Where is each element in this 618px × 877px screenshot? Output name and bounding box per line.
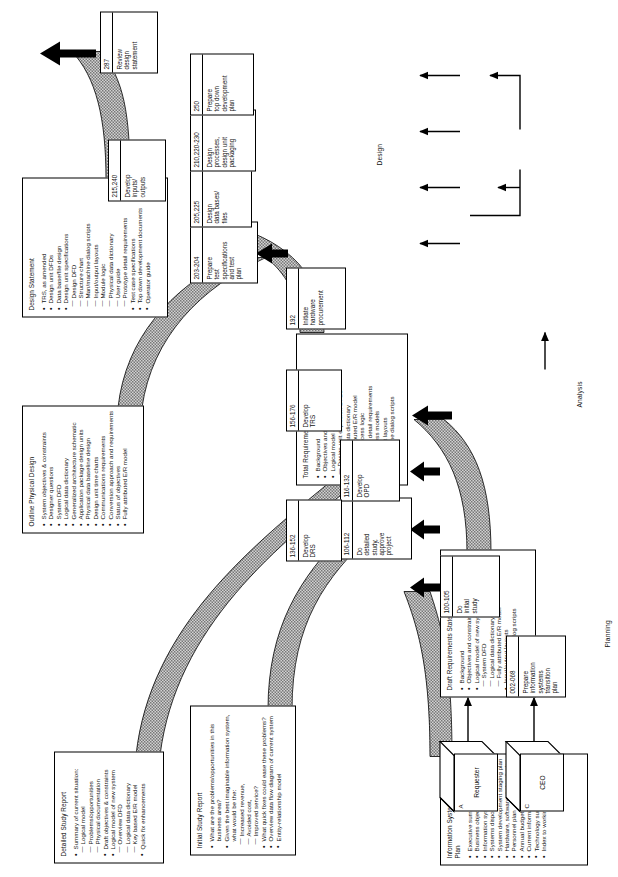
process-label: Develop TRS [299,370,341,430]
external-entity-requester: Requester A [440,739,500,811]
bold-arrow-into-100-105 [410,577,440,597]
process-label: Prepare top down development plan [203,54,253,114]
process-id: 156-176 [287,370,299,430]
process-id: 116-132 [341,440,353,500]
process-203-204: 203-204 Prepare test specifications and … [190,221,258,283]
document-list-item: Draft objectives & constraints [102,758,109,856]
document-list-item: Entity-relationship model [275,712,282,848]
process-label: Develop DRS [299,500,341,560]
document-list-item: Status of objectives [114,412,121,526]
process-id: 192 [287,268,299,328]
process-156-176: 156-176 Develop TRS [286,369,342,431]
document-list-item: User guide [114,184,121,310]
document-list-item: Module logic [99,184,106,310]
process-label: Review design statement [113,12,157,72]
document-list-item: Designer questions [47,412,54,526]
external-entity-ceo: CEO C [506,739,566,811]
document-list-item: What are the problems/opportunities in t… [208,712,215,848]
entity-tag: C [523,804,530,808]
diagram-page: Information Systems Transition Plan Exec… [0,0,618,877]
process-210-220-230: 210,220-230 Design processes, design uni… [190,109,256,171]
document-list-item: Given the best imaginable information sy… [223,712,230,848]
process-id: 250 [191,54,203,114]
document-items: System objectives & constraintsDesigner … [40,412,129,526]
document-list-item: Structure chart [77,184,84,310]
document-list-item: Data base/file design [55,184,62,310]
process-205-225: 205,225 Design data bases/ files [190,165,252,227]
document-list-item: Top down development documents [136,184,143,310]
document-list-item: System objectives & constraints [40,412,47,526]
document-list-item: What quick fixes could ease these proble… [260,712,267,848]
process-287: 287 Review design statement [100,11,158,73]
document-title: Detailed Study Report [60,758,68,856]
document-list-item: Operator guide [144,184,151,310]
document-title: Design Statement [28,184,36,310]
document-list-item: Input/output layouts [92,184,99,310]
process-label: Develop OPD [353,440,399,500]
process-id: 100-105 [441,556,453,616]
process-002-068: 002-068 Prepare information systems tran… [506,635,566,697]
bold-arrow-into-156-176 [412,405,452,425]
document-list-item: Problems/opportunities [87,758,94,856]
bold-exit-arrow [40,41,96,65]
document-items: TRS, as amendedDesign unit DFDsData base… [40,184,151,310]
process-100-105: 100-105 Do initial study [440,555,500,617]
process-label: Prepare information systems transition p… [519,636,565,696]
document-items: What are the problems/opportunities in t… [208,712,282,848]
document-initial-study-report: Initial Study Report What are the proble… [190,705,296,855]
process-label: Initiate hardware procurement [299,268,345,328]
document-list-item: TRS, as amended [40,184,47,310]
document-list-item: Design unit DFDs [47,184,54,310]
entity-label: Requester [473,767,480,797]
process-label: Develop inputs/ outputs [121,140,165,200]
document-list-item: Overview DFD [116,758,123,856]
process-id: 106-112 [341,498,353,558]
document-list-item: Quick fix enhancements [139,758,146,856]
phase-label-design: Design [376,143,383,165]
process-label: Do detailed study, approve project [353,498,411,558]
process-192: 192 Initiate hardware procurement [286,267,346,329]
document-list-item: Improved service? [252,712,259,848]
document-list-item: Physical documentation [94,758,101,856]
document-list-item: Physical data dictionary [107,184,114,310]
rotated-canvas-wrapper: Information Systems Transition Plan Exec… [0,0,618,877]
document-list-item: Man/machine dialog scripts [84,184,91,310]
process-label: Prepare test specifications and test pla… [203,222,257,282]
document-list-item: Prototype detail requirements [121,184,128,310]
bold-arrow-into-106-112 [410,519,440,539]
document-list-item: what would be the: [230,712,237,848]
process-136-152: 136-152 Develop DRS [286,499,342,561]
document-items: Summary of current situation:Logical mod… [72,758,146,856]
document-list-item: Logical model [79,758,86,856]
document-title: Initial Study Report [196,712,204,848]
entity-label: CEO [539,775,546,789]
process-215-240: 215,240 Develop inputs/ outputs [108,139,166,201]
diagram-canvas: Information Systems Transition Plan Exec… [0,0,618,877]
document-list-item: Increased revenue, [238,712,245,848]
document-list-item: Generalized architecture schematic [70,412,77,526]
document-list-item: Conversion approach and requirements [107,412,114,526]
process-label: Design processes, design unit packaging [203,110,255,170]
document-list-item: Design unit specifications [62,184,69,310]
process-id: 287 [101,12,113,72]
process-id: 215,240 [109,140,121,200]
phase-label-analysis: Analysis [576,381,583,407]
process-label: Do initial study [453,556,499,616]
document-list-item: System DFD [55,412,62,526]
document-outline-physical-design: Outline Physical Design System objective… [22,405,144,533]
document-list-item: Logical model of new system [109,758,116,856]
document-list-item: Fully attributed E/R model [121,412,128,526]
document-list-item: Key based E/R model [131,758,138,856]
bold-arrow-into-116-132 [410,461,440,481]
document-list-item: Summary of current situation: [72,758,79,856]
document-list-item: Overview data flow diagram of current sy… [267,712,274,848]
bold-arrow-into-203-204 [256,243,288,263]
document-list-item: Logical data dictionary [62,412,69,526]
document-title: Outline Physical Design [28,412,36,526]
document-list-item: Application package design units [77,412,84,526]
document-list-item: Physical data baseline design [84,412,91,526]
process-id: 205,225 [191,166,203,226]
process-id: 203-204 [191,222,203,282]
process-250: 250 Prepare top down development plan [190,53,254,115]
document-detailed-study-report: Detailed Study Report Summary of current… [54,751,164,863]
